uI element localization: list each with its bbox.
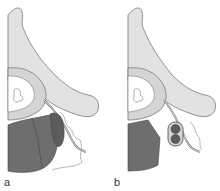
panel-b: b [110,0,220,191]
anatomy-diagram-b [110,0,220,191]
panel-label-a: a [4,176,10,188]
panel-a: a [0,0,110,191]
panel-label-b: b [114,176,120,188]
anatomy-diagram-a [0,0,110,191]
